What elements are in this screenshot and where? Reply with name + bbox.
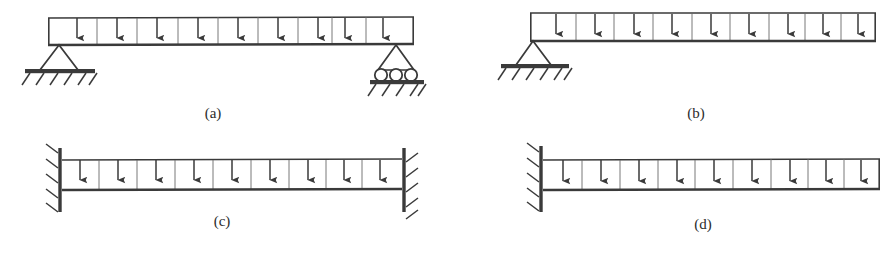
panel-c-caption: (c) xyxy=(214,213,231,230)
load-top-rail xyxy=(48,17,414,18)
roller-circle xyxy=(390,69,402,81)
load-top-rail xyxy=(62,159,402,160)
load-top-rail xyxy=(543,159,880,160)
panel-c-beam xyxy=(62,189,402,190)
panel-a-caption: (a) xyxy=(205,105,222,122)
panel-b-caption: (b) xyxy=(687,105,705,122)
ground-plate xyxy=(370,80,424,84)
ground-plate xyxy=(501,64,569,68)
panel-c-load-box xyxy=(62,159,402,160)
roller-circle xyxy=(405,69,417,81)
panel-d-caption: (d) xyxy=(694,216,712,233)
panel-d-beam xyxy=(543,189,880,190)
roller-circle xyxy=(375,69,387,81)
ground-plate xyxy=(25,69,95,73)
figure-canvas: (a) xyxy=(0,0,893,254)
figure-background xyxy=(0,0,893,254)
beam-diagram-figure: (a) xyxy=(0,0,893,254)
panel-a-beam xyxy=(48,44,414,45)
